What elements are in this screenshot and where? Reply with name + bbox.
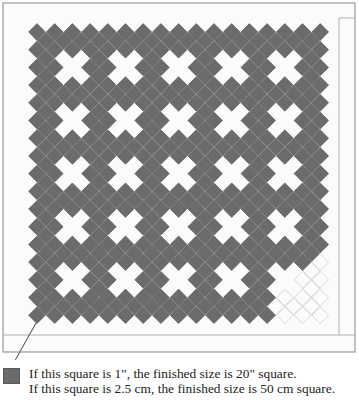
legend-line-centimeters: If this square is 2.5 cm, the finished s…	[29, 381, 335, 396]
legend-line-inches: If this square is 1", the finished size …	[29, 366, 335, 381]
sample-square-swatch	[3, 368, 20, 384]
legend: If this square is 1", the finished size …	[0, 355, 359, 400]
quilt-diagram	[0, 0, 359, 360]
legend-text: If this square is 1", the finished size …	[29, 366, 335, 396]
